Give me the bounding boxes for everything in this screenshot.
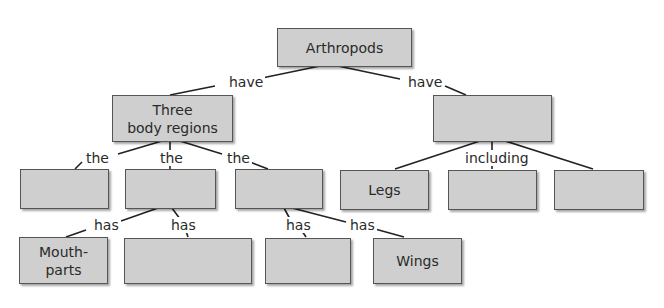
node-mouthparts: Mouth- parts [19,237,108,284]
link-label-has-4: has [348,217,377,233]
link-label-has-3: has [284,217,313,233]
node-label: Mouth- parts [39,243,88,279]
node-blank-part-2[interactable] [124,238,252,284]
node-blank-part-3[interactable] [265,238,351,284]
node-blank-feature-3[interactable] [554,170,644,210]
node-label: Wings [396,252,438,270]
node-blank-feature-2[interactable] [448,170,537,210]
link-label-has-2: has [169,217,198,233]
node-label: Arthropods [306,39,383,57]
node-wings: Wings [373,238,462,284]
node-blank-region-1[interactable] [20,169,109,209]
node-label: Three body regions [127,101,218,137]
node-blank-region-2[interactable] [125,169,216,209]
node-blank-right-top[interactable] [433,95,552,142]
link-label-have-left: have [227,74,265,90]
node-blank-region-3[interactable] [235,169,323,209]
link-label-have-right: have [406,74,444,90]
link-label-has-1: has [92,217,121,233]
node-legs: Legs [340,170,429,210]
link-label-including: including [463,150,531,166]
link-label-the-2: the [158,150,185,166]
link-label-the-1: the [84,150,111,166]
node-arthropods: Arthropods [277,28,412,67]
node-three-body-regions: Three body regions [112,95,233,142]
node-label: Legs [368,181,400,199]
link-label-the-3: the [225,150,252,166]
